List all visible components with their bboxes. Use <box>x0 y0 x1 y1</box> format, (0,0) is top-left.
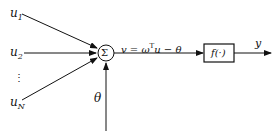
input-uN: uN <box>10 96 25 113</box>
neuron-diagram: u1 u2 ⋮ uN Σ θ v = ωTu − θ f(·) y <box>0 0 278 131</box>
input-u1: u1 <box>10 7 23 24</box>
equation-label: v = ωTu − θ <box>121 40 181 56</box>
diagram-lines <box>0 0 278 131</box>
output-y: y <box>255 38 261 50</box>
activation-function: f(·) <box>211 47 226 59</box>
input-u2: u2 <box>10 46 23 63</box>
input-ellipsis: ⋮ <box>14 72 24 84</box>
threshold-label: θ <box>94 92 101 104</box>
sum-symbol: Σ <box>101 47 108 59</box>
